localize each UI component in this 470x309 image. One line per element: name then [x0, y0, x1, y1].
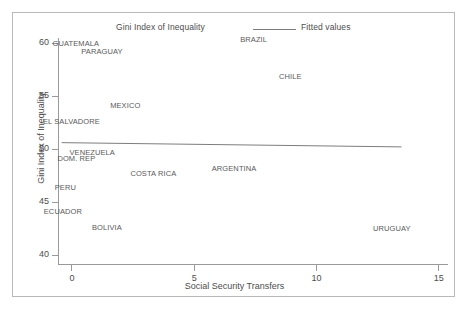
fitted-values-line — [58, 33, 448, 264]
y-tick-label: 40 — [39, 249, 49, 259]
y-tick-label: 60 — [39, 37, 49, 47]
x-tick: 5 — [194, 265, 195, 271]
x-tick-label: 10 — [311, 273, 321, 283]
x-tick-label: 15 — [434, 273, 444, 283]
y-tick-label: 50 — [39, 143, 49, 153]
x-axis-title: Social Security Transfers — [13, 281, 456, 291]
legend-item-fitted-values: Fitted values — [301, 22, 351, 32]
x-axis-line — [58, 264, 448, 265]
x-tick: 15 — [438, 265, 439, 271]
x-tick-label: 5 — [192, 273, 197, 283]
x-tick: 10 — [316, 265, 317, 271]
legend-line-marker-fitted-values — [253, 29, 296, 30]
y-axis-title: Gini Index of Inequality — [36, 58, 46, 218]
y-tick-label: 55 — [39, 90, 49, 100]
x-tick-label: 0 — [69, 273, 74, 283]
chart-frame: Gini Index of Inequality Fitted values G… — [12, 12, 455, 297]
x-tick: 0 — [71, 265, 72, 271]
legend-item-gini-index: Gini Index of Inequality — [116, 22, 205, 32]
scatter-plot-figure: Gini Index of Inequality Fitted values G… — [0, 0, 470, 309]
y-tick-label: 45 — [39, 196, 49, 206]
